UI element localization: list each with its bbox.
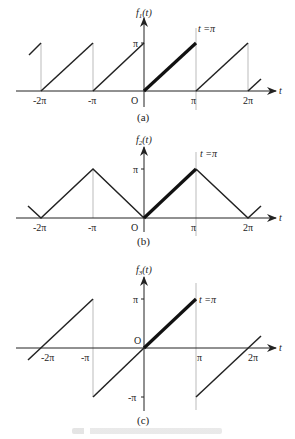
- curve-segment: [41, 43, 93, 91]
- x-axis-label: t: [279, 342, 282, 353]
- y-tick-label-pi: π: [133, 294, 138, 305]
- plot-caption: (c): [137, 414, 150, 427]
- x-tick-label: -2π: [33, 222, 46, 233]
- curve-segment-bold: [144, 43, 196, 91]
- plot-a: f1(t) t =π π t -2π -π O π 2π (a): [16, 7, 282, 124]
- x-tick-label: π: [191, 222, 196, 233]
- curve-segment: [93, 43, 144, 91]
- x-axis-label: t: [279, 85, 282, 96]
- curve-segment: [93, 348, 144, 397]
- y-tick-label-neg-pi: -π: [128, 392, 136, 403]
- x-tick-label: -π: [88, 95, 96, 106]
- y-axis-label: f3(t): [136, 264, 152, 277]
- x-tick-label: 2π: [243, 222, 253, 233]
- figure-canvas: f1(t) t =π π t -2π -π O π 2π (a) f2(t) t…: [0, 0, 295, 439]
- curve-segment: [29, 43, 41, 55]
- origin-label: O: [131, 222, 138, 233]
- x-tick-label: 2π: [248, 352, 258, 363]
- x-axis-label: t: [279, 212, 282, 223]
- x-tick-label: 2π: [243, 95, 253, 106]
- t-pi-annotation: t =π: [199, 294, 217, 305]
- x-tick-label: π: [191, 95, 196, 106]
- origin-label: O: [131, 95, 138, 106]
- y-tick-label-pi: π: [133, 164, 138, 175]
- x-tick-label: -π: [88, 222, 96, 233]
- curve-segment: [28, 299, 93, 360]
- x-tick-label: -2π: [41, 352, 54, 363]
- curve-segment: [196, 336, 261, 397]
- t-pi-annotation: t =π: [200, 148, 218, 159]
- plot-caption: (b): [137, 235, 150, 248]
- y-axis-label: f2(t): [136, 134, 152, 147]
- t-pi-annotation: t =π: [198, 23, 216, 34]
- x-tick-label: -π: [81, 352, 89, 363]
- plot-c: f3(t) t =π π -π t -2π -π O π 2π (c): [16, 264, 282, 427]
- plot-caption: (a): [137, 111, 150, 124]
- curve-segment: [196, 169, 261, 218]
- plot-b: f2(t) t =π π t -2π -π O π 2π (b): [16, 134, 282, 248]
- curve-segment: [248, 79, 261, 91]
- x-tick-label: π: [197, 352, 202, 363]
- origin-label: O: [134, 335, 141, 346]
- x-tick-label: -2π: [33, 95, 46, 106]
- blurred-figure-caption: [72, 428, 222, 434]
- y-tick-label-pi: π: [133, 38, 138, 49]
- curve-segment-bold: [144, 299, 196, 348]
- curve-segment: [196, 43, 248, 91]
- curve-segment-bold: [144, 169, 196, 218]
- curve-segment: [28, 169, 144, 218]
